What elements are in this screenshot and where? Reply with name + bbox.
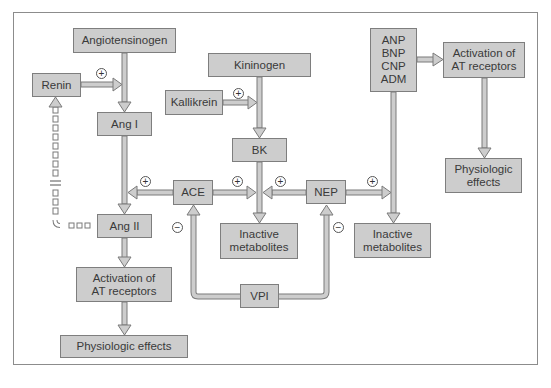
node-activation-left: Activation of AT receptors xyxy=(76,267,172,302)
node-bk: BK xyxy=(232,138,287,162)
arrow-kininogen-to-bk xyxy=(253,77,266,138)
arrow-ang1-to-ang2 xyxy=(118,136,131,214)
plus-sign-ace-right: + xyxy=(232,176,243,187)
plus-sign-renin: + xyxy=(96,68,107,79)
arrow-ace-to-ang-shaft xyxy=(128,186,173,199)
node-physiologic-right: Physiologic effects xyxy=(445,158,522,193)
node-kallikrein: Kallikrein xyxy=(165,90,223,115)
arrow-nep-to-natriuretic-shaft xyxy=(346,186,391,199)
node-natriuretic-peptides: ANP BNP CNP ADM xyxy=(370,28,417,92)
node-inactive-right: Inactive metabolites xyxy=(354,223,431,258)
arrow-natriuretic-to-activation xyxy=(417,53,443,66)
plus-sign-nep-right: + xyxy=(367,176,378,187)
plus-sign-kallikrein: + xyxy=(233,88,244,99)
arrow-ang2-to-activation xyxy=(118,238,131,267)
plus-sign-ace-left: + xyxy=(140,176,151,187)
arrow-activation-to-physiologic-right xyxy=(478,78,491,158)
node-inactive-center: Inactive metabolites xyxy=(220,223,298,259)
node-ace: ACE xyxy=(173,180,213,205)
arrow-natriuretic-to-inactive xyxy=(387,92,400,223)
node-vpi: VPI xyxy=(240,284,279,308)
minus-sign-vpi-ace: − xyxy=(172,222,183,233)
arrow-ace-to-bk-shaft xyxy=(213,186,256,199)
node-ang2: Ang II xyxy=(97,214,152,238)
node-ang1: Ang I xyxy=(97,112,152,136)
arrow-nep-to-bk-shaft xyxy=(263,186,306,199)
minus-sign-vpi-nep: − xyxy=(333,222,344,233)
node-kininogen: Kininogen xyxy=(208,53,311,77)
arrow-activation-to-physiologic-left xyxy=(118,302,131,335)
node-renin: Renin xyxy=(32,73,81,97)
plus-sign-nep-left: + xyxy=(275,176,286,187)
node-physiologic-left: Physiologic effects xyxy=(60,335,188,358)
node-nep: NEP xyxy=(306,180,346,204)
node-angiotensinogen: Angiotensinogen xyxy=(73,28,176,53)
feedback-ang2-to-renin xyxy=(49,97,90,228)
node-activation-right: Activation of AT receptors xyxy=(443,42,525,78)
arrow-renin-to-ang1 xyxy=(81,78,122,91)
